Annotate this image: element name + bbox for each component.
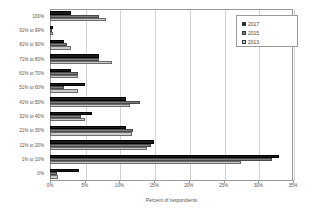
bar [50,175,58,178]
bar-group [50,167,293,181]
x-axis-tick-label: 10% [115,183,124,189]
legend-swatch-icon [242,22,246,26]
bar-group [50,138,293,152]
y-axis-tick-label: 41% to 50% [19,100,44,105]
y-axis-labels: 100%91% to 99%81% to 90%71% to 80%61% to… [0,9,47,181]
bar-group [50,109,293,123]
legend-item[interactable]: 2013 [242,37,297,46]
legend-label: 2017 [248,21,259,27]
x-axis-tick-label: 20% [184,183,193,189]
bar-chart: 100%91% to 99%81% to 90%71% to 80%61% to… [0,0,334,220]
y-axis-tick-label: 100% [32,14,44,19]
legend-item[interactable]: 2017 [242,19,297,28]
bar [50,104,130,107]
x-axis-tick-label: 5% [81,183,88,189]
bar [50,147,147,150]
y-axis-tick-label: 11% to 20% [20,143,44,148]
legend-swatch-icon [242,31,246,35]
bar [50,89,78,92]
bar [50,132,132,135]
bar-group [50,152,293,166]
bar-group [50,52,293,66]
y-axis-tick-label: 81% to 90% [19,42,44,47]
x-axis-tick-label: 25% [219,183,228,189]
y-axis-tick-label: 0% [37,171,44,176]
y-axis-tick-label: 51% to 60% [19,85,44,90]
x-axis-tick-label: 35% [288,183,297,189]
bar-group [50,124,293,138]
legend-label: 2015 [248,30,259,36]
bar [50,18,106,21]
x-axis-labels: 0%5%10%15%20%25%30%35% [50,183,293,193]
bar-group [50,81,293,95]
bar-group [50,66,293,80]
legend-label: 2013 [248,39,259,45]
legend: 201720152013 [236,15,298,47]
bar [50,32,53,35]
y-axis-tick-label: 71% to 80% [19,57,44,62]
y-axis-tick-label: 91% to 99% [19,28,44,33]
y-axis-tick-label: 21% to 30% [19,128,44,133]
bar [50,118,85,121]
y-axis-tick-label: 31% to 40% [19,114,44,119]
y-axis-tick-label: 61% to 70% [19,71,44,76]
bar [50,161,241,164]
legend-swatch-icon [242,40,246,44]
x-axis-title: Percent of respondents [50,197,293,203]
x-axis-tick-label: 0% [47,183,54,189]
bar-group [50,95,293,109]
y-axis-tick-label: 1% to 10% [22,157,44,162]
x-axis-tick-label: 15% [150,183,159,189]
bar [50,46,71,49]
legend-item[interactable]: 2015 [242,28,297,37]
bar [50,75,78,78]
x-axis-tick-label: 30% [254,183,263,189]
bar [50,61,112,64]
